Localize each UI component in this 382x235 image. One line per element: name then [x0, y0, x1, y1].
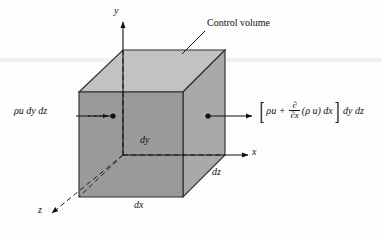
axis-z-label: z	[38, 205, 42, 215]
efflux-open-bracket: [	[260, 102, 265, 120]
axis-y-label: y	[114, 6, 118, 16]
dimension-dz-label: dz	[212, 167, 221, 177]
influx-expression-label: ρu dy dz	[14, 106, 47, 116]
dimension-dx-label: dx	[134, 200, 143, 210]
cube-front-face	[79, 92, 183, 197]
control-volume-figure: y x z dy dx dz Control volume ρu dy dz […	[0, 0, 382, 235]
efflux-partial-derivative: ∂ ∂x	[289, 101, 299, 120]
control-volume-label: Control volume	[207, 18, 270, 28]
dimension-dy-label: dy	[140, 135, 149, 145]
efflux-first-term: ρu +	[266, 106, 285, 116]
efflux-product-term: (ρ u) dx	[302, 106, 333, 116]
efflux-expression-label: [ ρu + ∂ ∂x (ρ u) dx ] dy dz	[258, 101, 364, 120]
efflux-derivative-denominator: ∂x	[289, 110, 299, 120]
efflux-trailing-term: dy dz	[343, 106, 364, 116]
efflux-derivative-numerator: ∂	[291, 101, 297, 110]
efflux-close-bracket: ]	[334, 102, 339, 120]
axis-x-label: x	[252, 147, 256, 157]
influx-point-marker	[110, 113, 115, 118]
